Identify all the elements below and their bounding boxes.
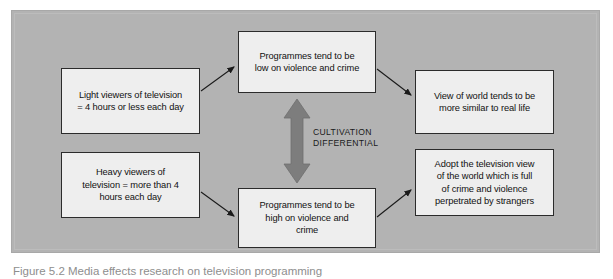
- connector-low-to-realistic: [377, 69, 411, 95]
- figure-caption: Figure 5.2 Media effects research on tel…: [13, 264, 603, 279]
- node-adopt-television-view-line2: of the world which is full: [435, 170, 535, 182]
- node-programmes-high-violence[interactable]: Programmes tend to be high on violence a…: [238, 188, 376, 248]
- node-realistic-world-view-line2: more similar to real life: [434, 102, 535, 114]
- node-adopt-television-view-line1: Adopt the television view: [435, 158, 535, 170]
- node-programmes-high-violence-line3: crime: [259, 224, 354, 236]
- node-light-viewers-line2: = 4 hours or less each day: [77, 101, 184, 113]
- cultivation-differential-label-line2: DIFFERENTIAL: [313, 138, 405, 149]
- node-programmes-high-violence-line2: high on violence and: [259, 212, 354, 224]
- node-heavy-viewers-line2: television = more than 4: [82, 179, 179, 191]
- node-adopt-television-view[interactable]: Adopt the television view of the world w…: [415, 149, 554, 216]
- node-realistic-world-view[interactable]: View of world tends to be more similar t…: [415, 70, 554, 134]
- node-programmes-high-violence-line1: Programmes tend to be: [259, 199, 354, 211]
- node-realistic-world-view-line1: View of world tends to be: [434, 90, 535, 102]
- cultivation-differential-label: CULTIVATION DIFFERENTIAL: [313, 127, 405, 150]
- node-programmes-low-violence-line1: Programmes tend to be: [255, 50, 359, 62]
- node-programmes-low-violence[interactable]: Programmes tend to be low on violence an…: [238, 31, 376, 93]
- connector-heavy-to-high: [201, 192, 234, 216]
- node-heavy-viewers-line3: hours each day: [82, 191, 179, 203]
- node-heavy-viewers[interactable]: Heavy viewers of television = more than …: [61, 152, 200, 218]
- node-adopt-television-view-line3: of crime and violence: [435, 183, 535, 195]
- connector-light-to-low: [201, 67, 234, 91]
- cultivation-differential-label-line1: CULTIVATION: [313, 127, 405, 138]
- node-adopt-television-view-line4: perpetrated by strangers: [435, 195, 535, 207]
- figure-root: Light viewers of television = 4 hours or…: [0, 0, 613, 279]
- node-light-viewers-line1: Light viewers of television: [77, 89, 184, 101]
- connector-high-to-tvview: [377, 190, 411, 217]
- node-heavy-viewers-line1: Heavy viewers of: [82, 166, 179, 178]
- cultivation-differential-arrow: [284, 99, 310, 183]
- node-programmes-low-violence-line2: low on violence and crime: [255, 62, 359, 74]
- node-light-viewers[interactable]: Light viewers of television = 4 hours or…: [61, 68, 200, 134]
